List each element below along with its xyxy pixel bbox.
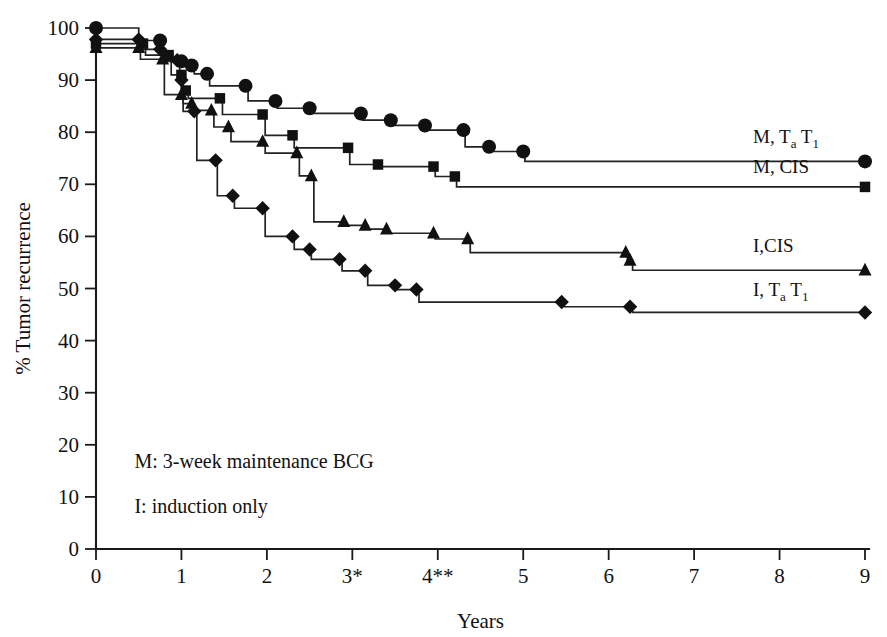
circle-marker	[239, 79, 253, 93]
induction-note: I: induction only	[134, 495, 267, 518]
triangle-marker	[337, 214, 350, 227]
y-axis-tick-label: 0	[69, 537, 80, 561]
diamond-marker	[226, 189, 240, 203]
diamond-marker	[358, 264, 372, 278]
circle-marker	[456, 123, 470, 137]
diamond-marker	[208, 153, 222, 167]
y-axis-tick-label: 20	[58, 433, 79, 457]
y-axis-title: % Tumor recurrence	[11, 202, 35, 375]
square-marker	[343, 143, 354, 154]
x-axis-tick-label: 8	[774, 564, 785, 588]
y-axis-tick-label: 60	[58, 224, 79, 248]
series-curve	[96, 28, 865, 161]
series-label: M, CIS	[753, 156, 809, 177]
circle-marker	[858, 154, 872, 168]
circle-marker	[482, 140, 496, 154]
square-marker	[428, 161, 439, 172]
x-axis-tick-label: 9	[860, 564, 871, 588]
y-axis-tick-label: 90	[58, 68, 79, 92]
diamond-marker	[332, 252, 346, 266]
series-label: I, Ta T1	[753, 279, 808, 304]
y-axis-tick-label: 30	[58, 381, 79, 405]
triangle-marker	[205, 103, 218, 116]
ticks-group	[85, 28, 865, 560]
square-marker	[215, 93, 226, 104]
circle-marker	[418, 118, 432, 132]
x-axis-tick-label: 0	[91, 564, 102, 588]
circle-marker	[268, 94, 282, 108]
x-axis-title: Years	[457, 609, 504, 633]
triangle-marker	[427, 226, 440, 239]
triangle-marker	[222, 120, 235, 133]
x-axis-tick-label: 4**	[422, 564, 454, 588]
chart-container: 01020304050607080901000123*4**56789 M, T…	[0, 0, 887, 637]
circle-marker	[303, 101, 317, 115]
x-axis-tick-label: 7	[689, 564, 700, 588]
annotations-group: M: 3-week maintenance BCGI: induction on…	[134, 450, 373, 517]
triangle-marker	[461, 232, 474, 245]
square-marker	[860, 182, 871, 193]
square-marker	[257, 109, 268, 120]
x-axis-tick-label: 2	[262, 564, 273, 588]
circle-marker	[354, 106, 368, 120]
diamond-marker	[285, 229, 299, 243]
series-label: M, Ta T1	[753, 126, 819, 151]
diamond-marker	[302, 242, 316, 256]
series-labels-group: M, Ta T1M, CISI,CISI, Ta T1	[753, 126, 819, 305]
triangle-marker	[859, 263, 872, 276]
circle-marker	[384, 113, 398, 127]
square-marker	[450, 171, 461, 182]
triangle-marker	[380, 222, 393, 235]
y-axis-tick-label: 10	[58, 485, 79, 509]
diamond-marker	[255, 201, 269, 215]
maintenance-note: M: 3-week maintenance BCG	[134, 450, 373, 472]
circle-marker	[516, 144, 530, 158]
diamond-marker	[858, 305, 872, 319]
square-marker	[287, 130, 298, 141]
x-axis-tick-label: 6	[603, 564, 614, 588]
x-axis-tick-label: 3*	[342, 564, 363, 588]
series-curve	[96, 39, 865, 312]
y-axis-tick-label: 80	[58, 120, 79, 144]
x-axis-tick-label: 5	[518, 564, 529, 588]
circle-marker	[200, 67, 214, 81]
diamond-marker	[409, 282, 423, 296]
diamond-marker	[388, 278, 402, 292]
triangle-marker	[359, 218, 372, 231]
square-marker	[373, 159, 384, 170]
y-axis-tick-label: 100	[48, 16, 80, 40]
series-label: I,CIS	[753, 235, 794, 256]
kaplan-meier-chart: 01020304050607080901000123*4**56789 M, T…	[0, 0, 887, 637]
y-axis-tick-label: 40	[58, 329, 79, 353]
triangle-marker	[305, 169, 318, 182]
x-axis-tick-label: 1	[176, 564, 187, 588]
y-axis-tick-label: 70	[58, 172, 79, 196]
circle-marker	[185, 59, 199, 73]
y-axis-tick-label: 50	[58, 277, 79, 301]
